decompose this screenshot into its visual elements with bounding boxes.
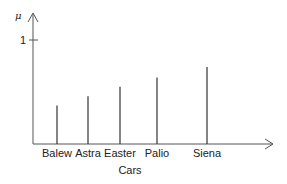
x-axis-label: Cars (118, 164, 142, 176)
y-tick-label: 1 (20, 34, 26, 46)
y-axis-label: μ (15, 10, 22, 21)
x-tick-label-astra: Astra (75, 147, 102, 159)
x-tick-label-balew: Balew (42, 147, 72, 159)
x-tick-label-siena: Siena (193, 147, 222, 159)
x-tick-label-easter: Easter (104, 147, 136, 159)
membership-chart: 1 μ Cars BalewAstraEasterPalioSiena (0, 0, 287, 184)
bars (57, 67, 207, 144)
x-tick-labels: BalewAstraEasterPalioSiena (42, 147, 222, 159)
x-tick-label-palio: Palio (145, 147, 169, 159)
